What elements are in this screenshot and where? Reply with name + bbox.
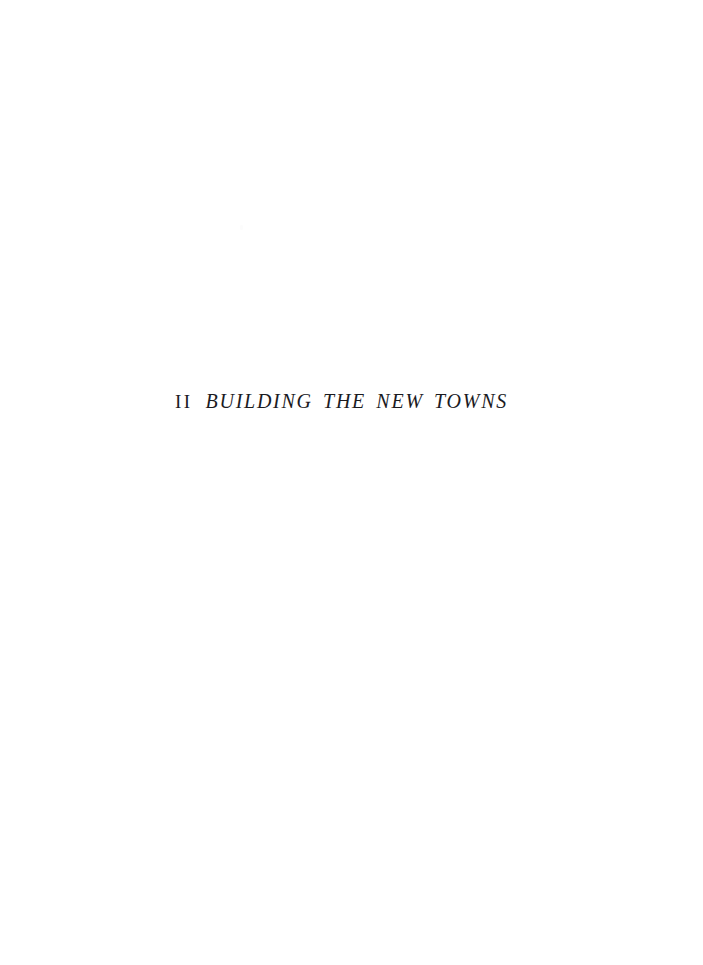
part-number: II [175, 392, 192, 411]
part-title-text: BUILDING THE NEW TOWNS [205, 391, 508, 411]
page: II BUILDING THE NEW TOWNS [0, 0, 703, 965]
part-title-heading: II BUILDING THE NEW TOWNS [175, 391, 508, 411]
scan-artifact-speck [240, 225, 243, 230]
